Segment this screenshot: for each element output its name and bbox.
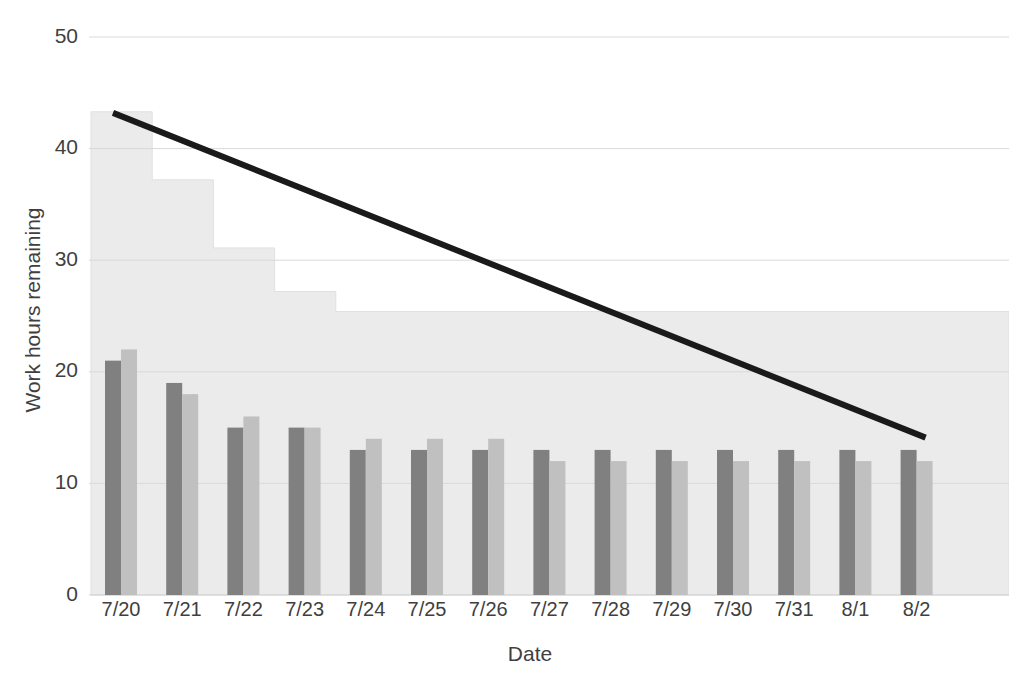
bar (105, 361, 121, 595)
bar (717, 450, 733, 595)
bar (121, 349, 137, 595)
x-tick-label: 7/28 (591, 598, 630, 620)
y-tick-label: 40 (55, 135, 78, 158)
x-tick-label: 8/2 (903, 598, 931, 620)
bar (855, 461, 871, 595)
bar (917, 461, 933, 595)
bar (901, 450, 917, 595)
bar (182, 394, 198, 595)
x-axis-title: Date (508, 642, 552, 665)
x-tick-label: 7/22 (224, 598, 263, 620)
bar (488, 439, 504, 595)
bar (672, 461, 688, 595)
bar (533, 450, 549, 595)
x-tick-label: 7/31 (775, 598, 814, 620)
x-tick-label: 7/26 (469, 598, 508, 620)
bar (243, 416, 259, 595)
bar (794, 461, 810, 595)
x-tick-label: 8/1 (841, 598, 869, 620)
x-tick-label: 7/29 (652, 598, 691, 620)
y-tick-label: 10 (55, 470, 78, 493)
bar (411, 450, 427, 595)
x-tick-label: 7/23 (285, 598, 324, 620)
bar (289, 428, 305, 595)
bar (733, 461, 749, 595)
bar (166, 383, 182, 595)
bar (656, 450, 672, 595)
x-axis-tick-labels: 7/207/217/227/237/247/257/267/277/287/29… (102, 598, 931, 620)
y-tick-label: 20 (55, 358, 78, 381)
bar (839, 450, 855, 595)
x-tick-label: 7/20 (102, 598, 141, 620)
bar (227, 428, 243, 595)
chart-canvas: 01020304050 7/207/217/227/237/247/257/26… (0, 0, 1009, 681)
bar (472, 450, 488, 595)
burndown-chart: 01020304050 7/207/217/227/237/247/257/26… (0, 0, 1009, 681)
bar (350, 450, 366, 595)
x-tick-label: 7/21 (163, 598, 202, 620)
x-tick-label: 7/30 (714, 598, 753, 620)
y-tick-label: 50 (55, 24, 78, 47)
y-axis-title: Work hours remaining (21, 207, 44, 412)
x-tick-label: 7/25 (408, 598, 447, 620)
bar (778, 450, 794, 595)
bar (366, 439, 382, 595)
bar (595, 450, 611, 595)
bar (305, 428, 321, 595)
bar (611, 461, 627, 595)
bar (549, 461, 565, 595)
y-tick-label: 0 (66, 582, 78, 605)
x-tick-label: 7/27 (530, 598, 569, 620)
y-tick-label: 30 (55, 247, 78, 270)
y-axis-tick-labels: 01020304050 (55, 24, 78, 605)
x-tick-label: 7/24 (346, 598, 385, 620)
bar (427, 439, 443, 595)
